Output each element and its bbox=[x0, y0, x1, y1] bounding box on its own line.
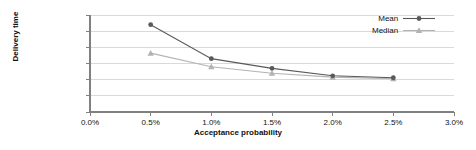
legend-label: Median bbox=[372, 26, 398, 35]
x-axis-tick-label: 3.0% bbox=[445, 118, 463, 127]
x-axis-tick-label: 0.0% bbox=[81, 118, 99, 127]
x-axis-tick-label: 1.5% bbox=[263, 118, 281, 127]
x-axis-tick-labels: 0.0%0.5%1.0%1.5%2.0%2.5%3.0% bbox=[0, 112, 476, 126]
x-axis-tick-label: 2.0% bbox=[324, 118, 342, 127]
legend-marker bbox=[417, 16, 422, 21]
legend-key-triangle-icon bbox=[402, 25, 436, 36]
x-axis-tick-label: 2.5% bbox=[384, 118, 402, 127]
data-point bbox=[270, 66, 275, 71]
data-point bbox=[147, 50, 153, 56]
chart-container: Delivery time 0 minutes5 minutes10 minut… bbox=[0, 0, 476, 150]
x-axis-tick-label: 0.5% bbox=[142, 118, 160, 127]
chart-legend: MeanMedian bbox=[372, 13, 436, 36]
legend-item-mean: Mean bbox=[372, 13, 436, 24]
data-point bbox=[148, 22, 153, 27]
x-axis-title: Acceptance probability bbox=[0, 128, 476, 137]
legend-item-median: Median bbox=[372, 25, 436, 36]
x-axis-tick-label: 1.0% bbox=[202, 118, 220, 127]
legend-key-circle-icon bbox=[402, 13, 436, 24]
legend-label: Mean bbox=[378, 14, 398, 23]
data-point bbox=[330, 73, 335, 78]
data-point bbox=[391, 75, 396, 80]
data-point bbox=[209, 56, 214, 61]
